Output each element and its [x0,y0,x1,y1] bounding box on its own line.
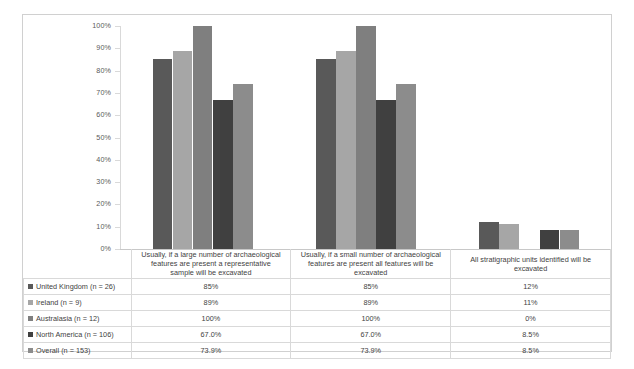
table-row: Overall (n = 153)73.9%73.9%8.5% [24,343,611,359]
y-tick-label: 40% [25,156,111,164]
bar-group [121,15,284,250]
legend-label: United Kingdom (n = 26) [36,282,115,291]
value-cell: 100% [131,311,291,327]
bar [560,230,580,249]
legend-entry: North America (n = 106) [24,327,132,343]
value-cell: 8.5% [451,327,611,343]
legend-label: Ireland (n = 9) [36,298,82,307]
y-tick-mark [115,26,120,27]
legend-swatch-icon [28,300,33,305]
legend-swatch-icon [28,332,33,337]
bar [316,59,336,249]
plot-area: 100%90%80%70%60%50%40%30%20%10%0% [23,15,611,249]
bar-group [448,15,611,250]
y-tick-mark [115,182,120,183]
value-cell: 89% [131,295,291,311]
value-cell: 67.0% [291,327,451,343]
y-tick-label: 90% [25,44,111,52]
value-cell: 12% [451,279,611,295]
table-row: North America (n = 106)67.0%67.0%8.5% [24,327,611,343]
value-cell: 100% [291,311,451,327]
y-tick-label: 70% [25,89,111,97]
bar-group [284,15,447,250]
bar [376,100,396,249]
value-cell: 11% [451,295,611,311]
bar [173,51,193,249]
y-tick-mark [115,115,120,116]
y-tick-label: 10% [25,223,111,231]
y-tick-mark [115,138,120,139]
legend-label: Overall (n = 153) [36,346,91,355]
data-table: Usually, if a large number of archaeolog… [23,249,611,359]
y-tick-label: 20% [25,200,111,208]
value-cell: 73.9% [131,343,291,359]
legend-label: North America (n = 106) [36,330,114,339]
y-tick-mark [115,227,120,228]
bar [396,84,416,249]
value-cell: 85% [131,279,291,295]
bar-groups [121,15,611,250]
chart-container: 100%90%80%70%60%50%40%30%20%10%0% Usuall… [22,14,612,352]
y-tick-label: 100% [25,22,111,30]
bar [153,59,173,249]
y-tick-label: 50% [25,134,111,142]
legend-entry: Australasia (n = 12) [24,311,132,327]
legend-swatch-icon [28,284,33,289]
table-header-row: Usually, if a large number of archaeolog… [24,249,611,279]
bar [540,230,560,249]
table-row: Ireland (n = 9)89%89%11% [24,295,611,311]
category-header-cell: Usually, if a large number of archaeolog… [131,249,291,279]
value-cell: 8.5% [451,343,611,359]
bar [213,100,233,249]
bar [479,222,499,249]
legend-entry: Ireland (n = 9) [24,295,132,311]
y-tick-mark [115,71,120,72]
table-corner-cell [24,249,132,279]
table-row: Australasia (n = 12)100%100%0% [24,311,611,327]
y-tick-mark [115,204,120,205]
table-body: Usually, if a large number of archaeolog… [24,249,611,359]
y-axis: 100%90%80%70%60%50%40%30%20%10%0% [23,15,111,249]
value-cell: 89% [291,295,451,311]
table-row: United Kingdom (n = 26)85%85%12% [24,279,611,295]
value-cell: 73.9% [291,343,451,359]
y-tick-mark [115,48,120,49]
y-tick-mark [115,93,120,94]
legend-entry: Overall (n = 153) [24,343,132,359]
bar [499,224,519,249]
y-tick-label: 60% [25,111,111,119]
y-tick-label: 30% [25,178,111,186]
legend-swatch-icon [28,316,33,321]
value-cell: 67.0% [131,327,291,343]
category-header-cell: All stratigraphic units identified will … [451,249,611,279]
bar [233,84,253,249]
legend-entry: United Kingdom (n = 26) [24,279,132,295]
y-tick-mark [115,160,120,161]
y-tick-label: 80% [25,67,111,75]
bar [193,26,213,249]
legend-label: Australasia (n = 12) [36,314,99,323]
legend-swatch-icon [28,348,33,353]
bar [356,26,376,249]
category-header-cell: Usually, if a small number of archaeolog… [291,249,451,279]
bar [336,51,356,249]
value-cell: 85% [291,279,451,295]
value-cell: 0% [451,311,611,327]
